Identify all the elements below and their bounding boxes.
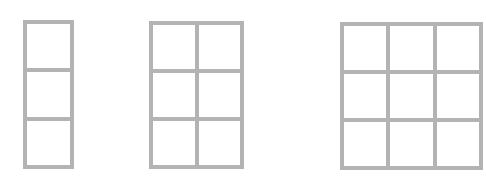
grid-cell bbox=[437, 26, 479, 70]
grid-cell bbox=[199, 121, 241, 165]
grid-cell bbox=[390, 26, 432, 70]
grid-cell bbox=[27, 24, 70, 68]
grid-cell bbox=[344, 26, 386, 70]
diagram-canvas bbox=[0, 0, 486, 186]
grid-cell bbox=[437, 122, 479, 166]
grid-cell bbox=[390, 74, 432, 118]
grid-cell bbox=[153, 25, 195, 69]
grid-1x3 bbox=[23, 20, 74, 169]
grid-cell bbox=[390, 122, 432, 166]
grid-cell bbox=[344, 122, 386, 166]
grid-2x3 bbox=[149, 21, 244, 169]
grid-cell bbox=[153, 121, 195, 165]
grid-cell bbox=[199, 73, 241, 117]
grid-3x3 bbox=[340, 22, 483, 170]
grid-cell bbox=[344, 74, 386, 118]
grid-cell bbox=[27, 121, 70, 165]
grid-cell bbox=[153, 73, 195, 117]
grid-cell bbox=[199, 25, 241, 69]
grid-cell bbox=[27, 72, 70, 116]
grid-cell bbox=[437, 74, 479, 118]
